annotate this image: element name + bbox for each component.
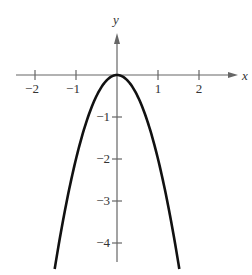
x-axis-label: x: [241, 68, 248, 83]
x-tick-label: 1: [155, 81, 162, 96]
x-axis-arrow-icon: [228, 72, 238, 78]
x-tick-label: −1: [66, 81, 80, 96]
axes: [16, 33, 238, 262]
y-tick-label: −3: [96, 193, 110, 208]
y-axis-label: y: [111, 12, 119, 27]
x-tick-label: 2: [196, 81, 203, 96]
y-axis-arrow-icon: [114, 33, 120, 44]
y-tick-label: −4: [96, 235, 110, 250]
parabola-chart: −2−112−1−2−3−4 x y: [0, 0, 252, 275]
x-tick-label: −2: [25, 81, 39, 96]
tick-labels: −2−112−1−2−3−4: [25, 81, 202, 250]
y-tick-label: −1: [96, 109, 110, 124]
y-tick-label: −2: [96, 151, 110, 166]
